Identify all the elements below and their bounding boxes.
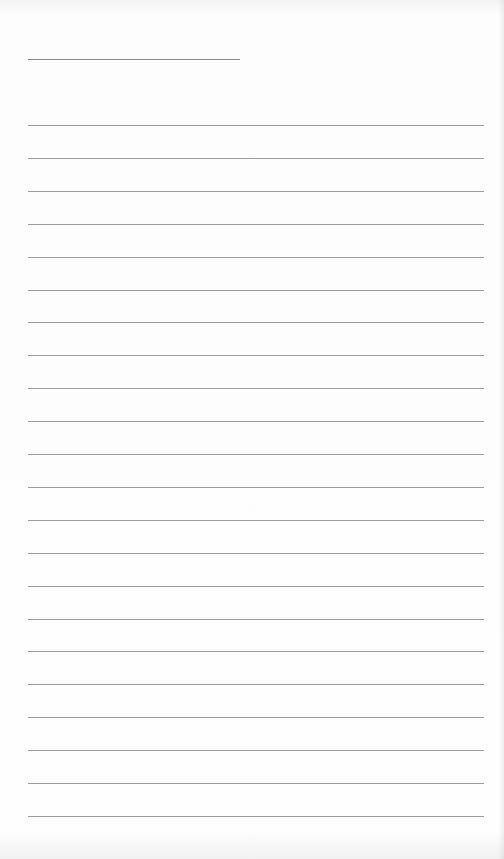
ruled-line	[28, 651, 484, 652]
ruled-line	[28, 783, 484, 784]
ruled-line	[28, 224, 484, 225]
ruled-line	[28, 619, 484, 620]
ruled-line	[28, 487, 484, 488]
ruled-line	[28, 717, 484, 718]
ruled-line	[28, 322, 484, 323]
ruled-line	[28, 355, 484, 356]
ruled-line	[28, 520, 484, 521]
ruled-line	[28, 125, 484, 126]
page-edge-shadow	[498, 0, 504, 859]
ruled-line	[28, 684, 484, 685]
ruled-line	[28, 257, 484, 258]
ruled-line	[28, 290, 484, 291]
ruled-line	[28, 553, 484, 554]
ruled-line	[28, 421, 484, 422]
ruled-line	[28, 586, 484, 587]
ruled-line	[28, 750, 484, 751]
ruled-line	[28, 816, 484, 817]
lined-paper-sheet	[0, 0, 504, 859]
ruled-line	[28, 454, 484, 455]
ruled-line	[28, 158, 484, 159]
header-title-line	[28, 59, 240, 60]
ruled-line	[28, 388, 484, 389]
ruled-line	[28, 191, 484, 192]
